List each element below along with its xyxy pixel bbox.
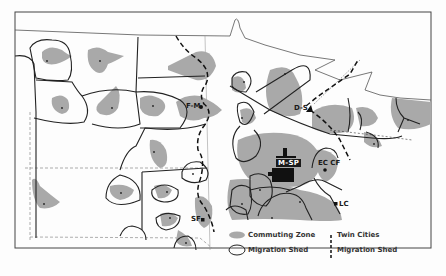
north-shore-dotted-line <box>314 60 360 104</box>
commuting-zone <box>52 95 69 114</box>
migration-sheds <box>15 37 420 250</box>
legend-twin-cities-shed-label: Migration Shed <box>337 246 397 254</box>
legend-migration-shed-label: Migration Shed <box>248 246 308 254</box>
map-frame <box>15 12 431 248</box>
legend-commuting-zone-label: Commuting Zone <box>248 231 315 239</box>
city-label-ecc: EC CF <box>318 159 340 167</box>
city-label-msp: M-SP <box>276 159 301 167</box>
legend-migration-shed-swatch <box>229 245 245 255</box>
commuting-zone <box>42 47 72 64</box>
commuting-zone <box>232 76 246 92</box>
commuting-zone <box>150 140 167 168</box>
national-border <box>15 19 431 100</box>
city-label-sf: SF <box>191 215 201 223</box>
commuting-zone <box>176 230 192 246</box>
zone-centers <box>43 60 409 244</box>
map-figure: F-M D-S M-SP EC CF LC SF Commuting Zone … <box>0 0 446 276</box>
city-marker-sf <box>201 218 205 222</box>
city-marker-ecc <box>323 168 327 172</box>
commuting-zone <box>88 47 124 73</box>
commuting-zone <box>110 185 134 200</box>
city-label-fm: F-M <box>186 102 200 110</box>
commuting-zones <box>32 47 431 246</box>
commuting-zone <box>356 107 378 126</box>
commuting-zone <box>195 196 212 228</box>
migration-shed <box>15 56 36 238</box>
commuting-zone <box>312 105 354 134</box>
city-label-lc: LC <box>339 200 349 208</box>
legend-twin-cities-label: Twin Cities <box>337 231 380 239</box>
city-marker-lc <box>334 202 338 206</box>
city-label-ds: D-S <box>294 104 308 112</box>
legend-commuting-zone-swatch <box>229 232 245 239</box>
twin-cities-shed-north <box>306 60 358 106</box>
migration-shed <box>182 162 208 183</box>
